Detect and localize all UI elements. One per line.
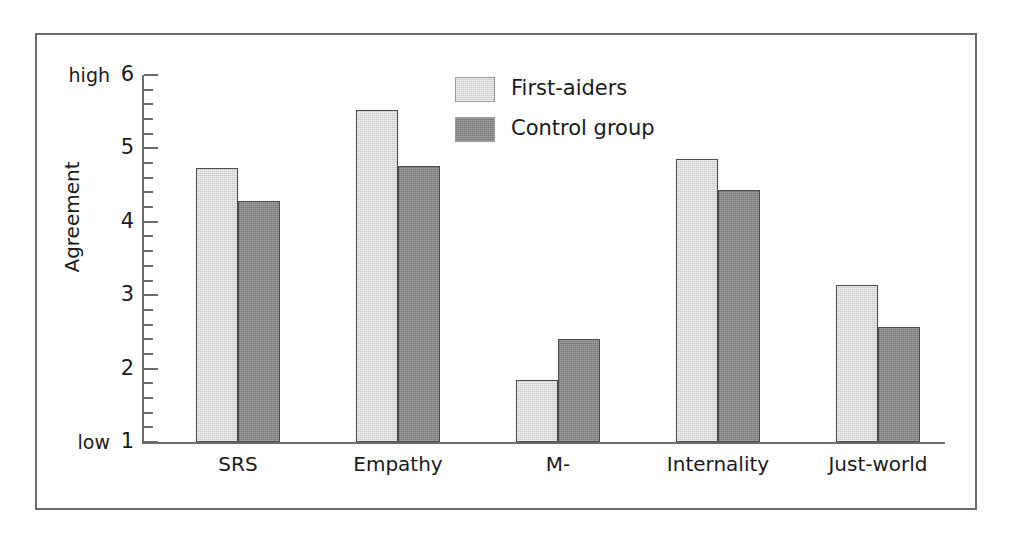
y-tick-minor	[144, 324, 153, 326]
bar	[676, 159, 718, 442]
y-tick-label: 1	[108, 431, 134, 452]
y-tick-minor	[144, 206, 153, 208]
y-tick-major	[144, 294, 158, 296]
y-tick-minor	[144, 103, 153, 105]
legend-label-first-aiders: First-aiders	[511, 76, 627, 100]
y-tick-minor	[144, 382, 153, 384]
y-tick-minor	[144, 265, 153, 267]
chart-figure: Agreement 123456 SRSEmpathyM-Internality…	[0, 0, 1014, 543]
x-axis-line	[142, 442, 945, 444]
y-tick-label: 5	[108, 137, 134, 158]
y-tick-minor	[144, 133, 153, 135]
y-tick-label: 4	[108, 211, 134, 232]
y-tick-minor	[144, 397, 153, 399]
y-tick-minor	[144, 177, 153, 179]
y-tick-major	[144, 441, 158, 443]
y-axis-high-label: high	[48, 66, 110, 85]
legend-swatch-control-group	[455, 117, 495, 142]
y-tick-minor	[144, 250, 153, 252]
x-tick-label: Just-world	[796, 452, 960, 476]
y-axis-line	[142, 75, 144, 444]
bar	[356, 110, 398, 442]
x-tick-label: M-	[476, 452, 640, 476]
y-tick-minor	[144, 426, 153, 428]
y-tick-major	[144, 368, 158, 370]
y-tick-minor	[144, 412, 153, 414]
legend-swatch-first-aiders	[455, 77, 495, 102]
y-tick-minor	[144, 309, 153, 311]
y-tick-minor	[144, 162, 153, 164]
y-tick-minor	[144, 118, 153, 120]
bar	[516, 380, 558, 442]
y-tick-label: 6	[108, 64, 134, 85]
x-tick-label: Empathy	[316, 452, 480, 476]
legend-label-control-group: Control group	[511, 116, 655, 140]
y-tick-major	[144, 74, 158, 76]
y-axis-label: Agreement	[60, 137, 84, 297]
y-tick-minor	[144, 89, 153, 91]
y-tick-label: 3	[108, 284, 134, 305]
bar	[878, 327, 920, 442]
bar	[718, 190, 760, 442]
bar	[196, 168, 238, 442]
y-tick-minor	[144, 353, 153, 355]
y-tick-major	[144, 221, 158, 223]
bar	[238, 201, 280, 442]
x-tick-label: Internality	[636, 452, 800, 476]
y-tick-minor	[144, 191, 153, 193]
x-tick-label: SRS	[156, 452, 320, 476]
y-tick-label: 2	[108, 358, 134, 379]
y-tick-minor	[144, 235, 153, 237]
y-tick-minor	[144, 280, 153, 282]
bar	[398, 166, 440, 442]
plot-area: Agreement 123456 SRSEmpathyM-Internality…	[0, 0, 1014, 543]
y-axis-low-label: low	[48, 433, 110, 452]
y-tick-major	[144, 147, 158, 149]
bar	[558, 339, 600, 442]
bar	[836, 285, 878, 442]
y-tick-minor	[144, 338, 153, 340]
